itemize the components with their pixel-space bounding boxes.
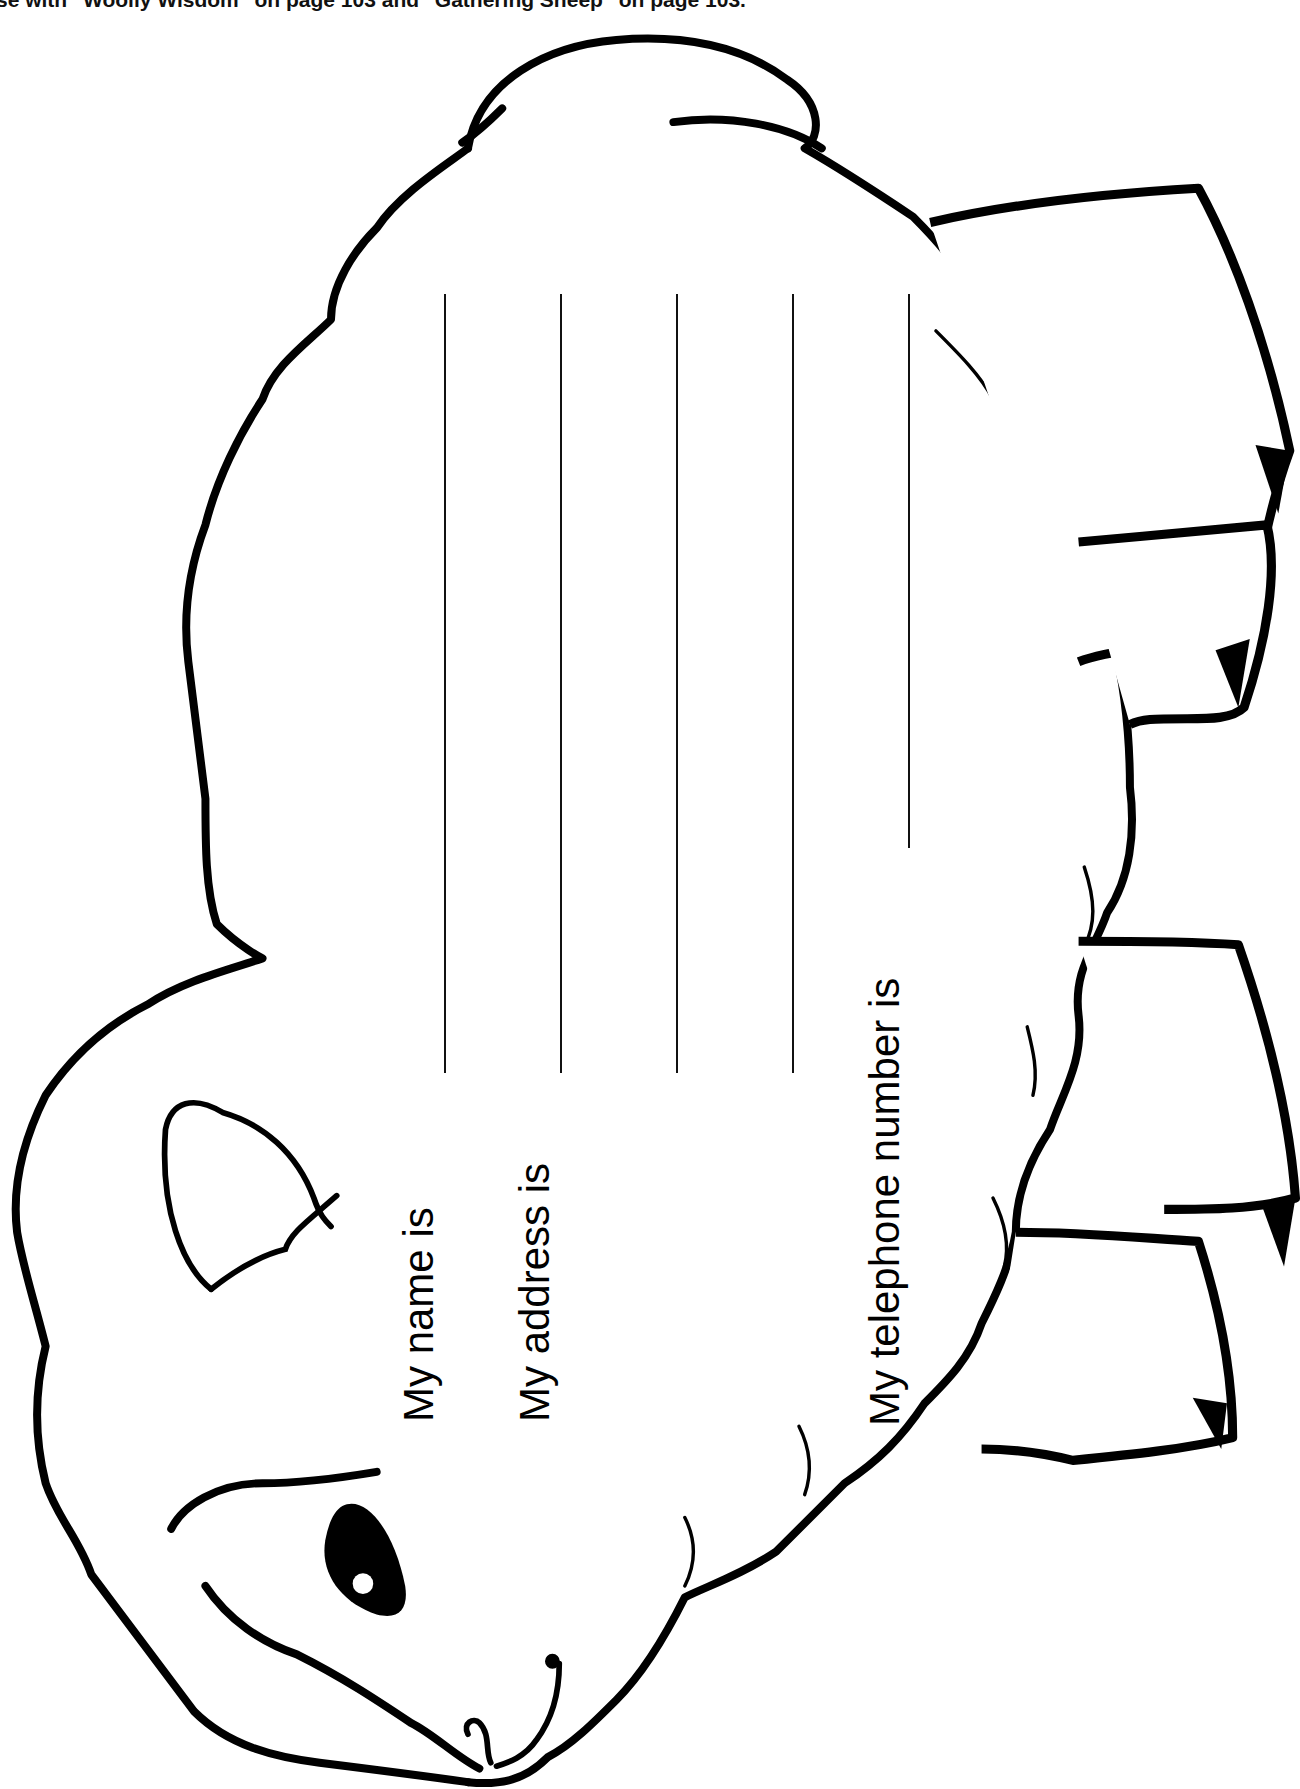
address-line-3[interactable] [792,294,794,1073]
sheep-outline-icon [0,0,1300,1789]
address-line-2[interactable] [676,294,678,1073]
sheep-ear-icon [165,1103,337,1289]
address-line-1[interactable] [560,294,562,1073]
sheep-mouth-icon [466,1657,559,1767]
address-label: My address is [514,1163,556,1422]
sheep-leg-icon [930,188,1295,1460]
telephone-label: My telephone number is [864,978,906,1426]
name-line[interactable] [444,294,446,1073]
telephone-line[interactable] [908,294,910,848]
name-label: My name is [398,1207,440,1422]
sheep-eye-icon [324,1504,405,1616]
